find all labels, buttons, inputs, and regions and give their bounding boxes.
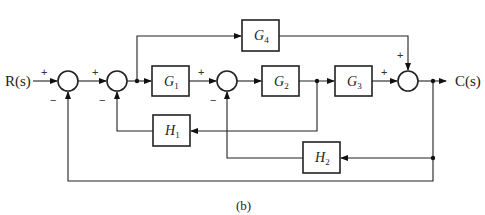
wire-h1-to-s2	[117, 92, 153, 131]
sign-s4-top: +	[397, 49, 403, 61]
wire-g4-to-s4	[279, 36, 408, 70]
sign-s4-left: +	[381, 66, 387, 78]
block-g3-name: G	[347, 74, 357, 89]
sign-s3-bottom: −	[210, 94, 216, 106]
block-diagram: R(s) + − + − + − + + G1 G2 G3	[0, 0, 485, 215]
sign-s3-left: +	[198, 66, 204, 78]
sign-s2-left: +	[92, 66, 98, 78]
wire-unity-feedback	[68, 92, 433, 181]
block-g1-sub: 1	[174, 81, 179, 91]
junction-dot	[431, 79, 435, 83]
sign-s2-bottom: −	[99, 94, 105, 106]
input-label: R(s)	[5, 73, 31, 90]
block-h2: H2	[303, 142, 340, 173]
block-g2-name: G	[274, 74, 284, 89]
figure-caption: (b)	[236, 198, 251, 213]
sign-s1-bottom: −	[50, 94, 56, 106]
sign-s1-left: +	[41, 66, 47, 78]
block-g4-name: G	[254, 28, 264, 43]
block-g1: G1	[152, 66, 189, 96]
output-label: C(s)	[455, 73, 481, 90]
junction-dot	[431, 156, 435, 160]
summing-junction-4	[398, 71, 418, 91]
junction-dot	[315, 79, 319, 83]
junction-dot	[135, 79, 139, 83]
block-g1-name: G	[164, 74, 174, 89]
summing-junction-2	[107, 71, 127, 91]
block-g2-sub: 2	[284, 81, 289, 91]
block-h1-sub: 1	[175, 130, 180, 140]
block-g2: G2	[262, 66, 299, 96]
summing-junction-3	[217, 71, 237, 91]
block-h1: H1	[153, 115, 190, 146]
wire-h2-to-s3	[227, 92, 303, 158]
block-g3: G3	[335, 66, 372, 96]
block-g3-sub: 3	[357, 81, 362, 91]
block-g4: G4	[242, 20, 279, 51]
block-g4-sub: 4	[264, 35, 269, 45]
summing-junction-1	[58, 71, 78, 91]
block-h2-sub: 2	[325, 157, 330, 167]
